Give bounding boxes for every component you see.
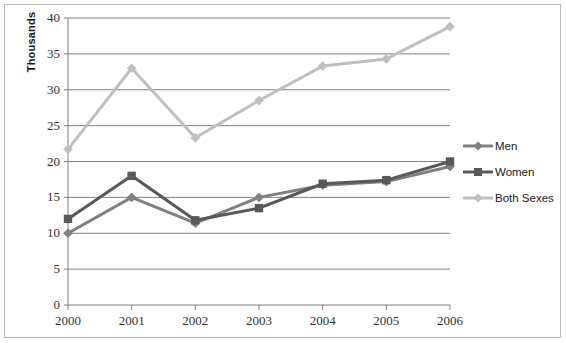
series-women	[64, 157, 454, 224]
series-both-sexes	[63, 22, 455, 154]
series-line	[68, 27, 450, 150]
data-point-marker	[255, 204, 263, 212]
legend-label: Both Sexes	[493, 192, 554, 204]
line-chart-figure: Thousands 0510152025303540 2000200120022…	[0, 0, 566, 343]
legend-item-both-sexes[interactable]: Both Sexes	[463, 185, 559, 211]
legend-label: Women	[493, 166, 534, 178]
data-point-marker	[64, 215, 72, 223]
legend-swatch-icon	[463, 139, 493, 153]
data-point-marker	[382, 176, 390, 184]
data-point-marker	[127, 172, 135, 180]
data-point-marker	[318, 180, 326, 188]
series-men	[63, 162, 455, 238]
legend-label: Men	[493, 140, 517, 152]
legend-item-women[interactable]: Women	[463, 159, 559, 185]
data-point-marker	[254, 193, 264, 203]
data-point-marker	[474, 168, 482, 176]
data-point-marker	[473, 141, 482, 150]
legend-swatch-icon	[463, 165, 493, 179]
data-point-marker	[446, 157, 454, 165]
chart-legend: MenWomenBoth Sexes	[463, 133, 559, 211]
data-point-marker	[473, 193, 482, 202]
legend-item-men[interactable]: Men	[463, 133, 559, 159]
legend-swatch-icon	[463, 191, 493, 205]
data-point-marker	[191, 216, 199, 224]
